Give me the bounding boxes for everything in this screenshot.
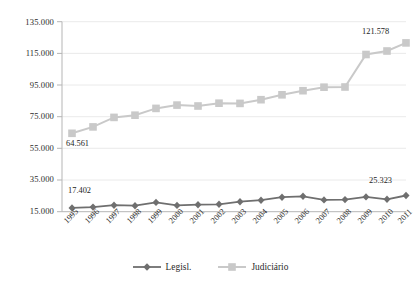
gridlines: [62, 22, 406, 180]
plot-area: [0, 0, 420, 289]
legend-label-legisl: Legisl.: [166, 262, 192, 272]
legend-marker-judiciario-icon: [217, 262, 247, 272]
legend-item-legisl[interactable]: Legisl.: [132, 262, 192, 272]
data-label-judiciario-first: 64.561: [66, 139, 89, 148]
data-label-legisl-last: 25.323: [369, 176, 392, 185]
data-label-judiciario-last: 121.578: [362, 27, 389, 36]
y-axis-ticks: [57, 22, 62, 212]
legend-label-judiciario: Judiciário: [251, 262, 288, 272]
data-label-legisl-first: 17.402: [68, 186, 91, 195]
legend-item-judiciario[interactable]: Judiciário: [217, 262, 288, 272]
line-chart: 135.000 115.000 95.000 75.000 55.000 35.…: [0, 0, 420, 289]
legend-marker-legisl-icon: [132, 262, 162, 272]
chart-legend: Legisl. Judiciário: [0, 262, 420, 272]
